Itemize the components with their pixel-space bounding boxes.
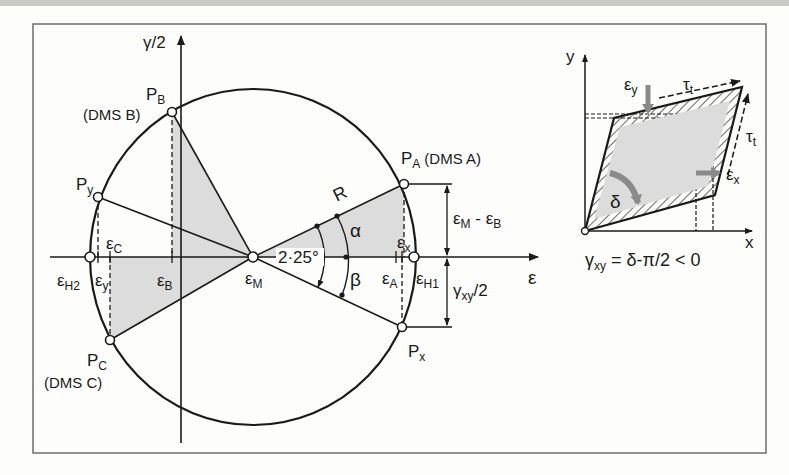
label-ey: εy [95,271,109,293]
label-PB: PB [146,85,165,107]
element-origin [582,228,589,235]
label-gamma-xy-half: γxy/2 [453,281,488,303]
label-DMS-C: (DMS C) [44,374,102,391]
label-R: R [330,182,350,206]
eps-y-label: εy [624,75,638,97]
point-eH2 [85,252,95,262]
tau-right-label: τt [746,127,757,149]
tau-top-label: τt [683,75,694,97]
label-eM-minus-eB: εM - εB [453,209,501,231]
label-PA: PA(DMS A) [401,149,481,171]
label-eA: εA [382,269,398,291]
epsilon-axis-label: ε [528,267,537,288]
label-ex: εx [397,233,411,255]
element-sketch [582,55,753,235]
point-PB [168,108,177,117]
label-Px: Px [408,342,425,364]
shear-formula: γxy = δ-π/2 < 0 [585,250,700,273]
delta-label: δ [610,191,621,212]
point-PC [106,336,115,345]
element-y-label: y [566,47,575,66]
label-beta: β [350,269,361,290]
element-x-label: x [745,233,754,252]
point-PA [400,180,409,189]
point-eM [248,252,258,262]
label-eH1: εH1 [416,269,439,291]
label-alpha: α [350,220,361,241]
label-Py: Py [76,175,93,197]
point-Px [398,323,407,332]
gamma-axis-label: γ/2 [143,33,166,52]
point-Py [94,193,103,202]
label-eC: εC [106,234,123,256]
label-angle-2x25: 2·25° [278,248,319,267]
label-eM: εM [245,269,263,291]
label-DMS-B: (DMS B) [83,106,141,123]
mohr-circle-figure: γ/2 ε PB (DMS B) Py PC (DMS C) PA(DMS A)… [0,0,789,475]
label-PC: PC [87,351,107,373]
label-eH2: εH2 [57,271,80,293]
eps-x-label: εx [726,165,740,187]
